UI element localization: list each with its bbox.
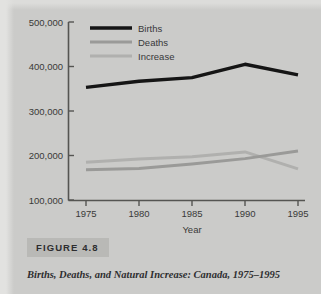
y-tick-label: 300,000: [29, 106, 63, 117]
y-tick-label: 400,000: [29, 61, 63, 72]
y-axis-tick-labels: 500,000 400,000 300,000 200,000 100,000: [29, 17, 63, 206]
series-line-births: [86, 64, 298, 87]
figure-page: 500,000 400,000 300,000 200,000 100,000 …: [0, 0, 321, 294]
legend-label-births: Births: [138, 23, 163, 34]
chart-area: 500,000 400,000 300,000 200,000 100,000 …: [0, 0, 321, 232]
line-chart: 500,000 400,000 300,000 200,000 100,000 …: [0, 0, 321, 232]
series-paths: [86, 64, 298, 169]
y-tick-label: 100,000: [29, 195, 63, 206]
x-tick-label: 1995: [287, 208, 308, 219]
y-axis-ticks: [69, 22, 75, 200]
x-tick-label: 1985: [181, 208, 202, 219]
y-tick-label: 200,000: [29, 150, 63, 161]
x-axis-tick-labels: 1975 1980 1985 1990 1995: [75, 208, 308, 219]
y-tick-label: 500,000: [29, 17, 63, 28]
figure-number-badge: FIGURE 4.8: [27, 238, 109, 257]
x-tick-label: 1975: [75, 208, 96, 219]
legend-label-deaths: Deaths: [138, 37, 168, 48]
figure-caption-block: FIGURE 4.8 Births, Deaths, and Natural I…: [0, 232, 321, 294]
figure-caption: Births, Deaths, and Natural Increase: Ca…: [27, 269, 280, 280]
x-tick-label: 1990: [234, 208, 255, 219]
x-tick-label: 1980: [128, 208, 149, 219]
legend: Births Deaths Increase: [90, 23, 174, 62]
legend-label-increase: Increase: [138, 51, 174, 62]
x-axis-ticks: [86, 201, 298, 207]
